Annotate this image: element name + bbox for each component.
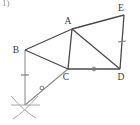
tick-marks <box>21 41 126 90</box>
segment-a-to-c <box>68 29 72 69</box>
segment-b-to-a <box>25 29 72 50</box>
geometry-diagram: A B C D E <box>0 0 140 125</box>
vertex-label-d: D <box>118 72 125 82</box>
tick-on-pc-icon <box>40 86 44 90</box>
vertex-label-b: B <box>13 45 19 55</box>
figure-edges <box>25 15 124 69</box>
segment-b-to-c <box>25 50 68 69</box>
vertex-labels: A B C D E <box>13 3 125 82</box>
vertex-label-a: A <box>65 16 72 26</box>
vertex-label-c: C <box>63 72 69 82</box>
segment-a-to-d <box>72 29 120 69</box>
construction-lines <box>25 50 68 105</box>
vertex-label-e: E <box>118 3 124 13</box>
geometry-figure-page: 1) <box>0 0 140 125</box>
segment-a-to-e <box>72 15 124 29</box>
segment-p-to-c <box>25 69 68 105</box>
tick-on-ed-icon <box>118 41 126 42</box>
